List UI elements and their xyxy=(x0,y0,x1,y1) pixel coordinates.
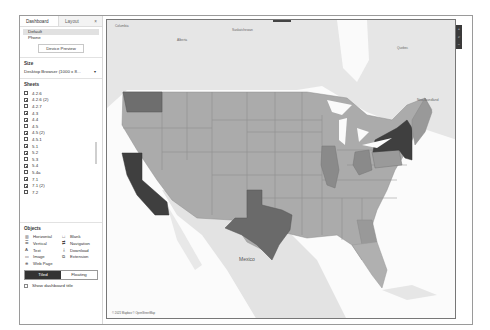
sheet-label: 4.2.7 xyxy=(32,104,42,109)
sheet-label: 4.5.1 xyxy=(32,137,42,142)
object-text[interactable]: AText xyxy=(24,248,61,253)
sheet-label: 4.4 xyxy=(32,117,38,122)
text-icon: A xyxy=(24,248,29,252)
objects-title: Objects xyxy=(24,226,98,231)
object-blank[interactable]: □Blank xyxy=(61,234,98,239)
sheet-item[interactable]: 4.2.6 (2) xyxy=(24,97,98,104)
size-value: Desktop Browser (1000 x 8... xyxy=(24,69,81,74)
sidebar-tabs: Dashboard Layout × xyxy=(20,16,102,27)
blank-icon: □ xyxy=(61,235,66,239)
show-title-checkbox[interactable] xyxy=(24,284,28,288)
worksheet-icon xyxy=(24,131,28,135)
object-label: Web Page xyxy=(33,261,52,266)
map-label-quebec: Quebec xyxy=(397,46,408,50)
object-extension[interactable]: ⧉Extension xyxy=(61,254,98,259)
tab-dashboard-label: Dashboard xyxy=(26,19,48,24)
map-attribution[interactable]: © 2021 Mapbox © OpenStreetMap xyxy=(112,311,155,315)
worksheet-icon xyxy=(24,124,28,128)
worksheet-icon xyxy=(24,184,28,188)
worksheet-icon xyxy=(24,98,28,102)
chevron-down-icon: ▾ xyxy=(94,69,96,74)
sheet-item[interactable]: 4.5 (2) xyxy=(24,130,98,137)
sheet-label: 5.1 xyxy=(32,144,38,149)
sheet-item[interactable]: 4.5 xyxy=(24,123,98,130)
tiled-button[interactable]: Tiled xyxy=(25,271,61,279)
object-navigation[interactable]: ⇄Navigation xyxy=(61,241,98,246)
worksheet-icon xyxy=(24,91,28,95)
worksheet-icon xyxy=(24,111,28,115)
sheet-item[interactable]: 4.4 xyxy=(24,116,98,123)
floating-button[interactable]: Floating xyxy=(61,271,97,279)
worksheet-icon xyxy=(24,151,28,155)
map-label-saskatchewan: Saskatchewan xyxy=(232,28,253,32)
worksheet-icon xyxy=(24,164,28,168)
sheet-item[interactable]: 4.5.1 xyxy=(24,136,98,143)
search-icon[interactable]: ⌕ xyxy=(456,33,462,41)
sheet-label: 4.5 xyxy=(32,124,38,129)
sheet-label: 5.4 xyxy=(32,163,38,168)
device-item-phone[interactable]: Phone xyxy=(23,35,99,41)
sheet-list-scrollbar[interactable] xyxy=(95,142,97,164)
worksheet-icon xyxy=(24,137,28,141)
sheet-item[interactable]: 7.2 xyxy=(24,189,98,196)
show-dashboard-title-option[interactable]: Show dashboard title xyxy=(24,283,98,288)
sheet-label: 7.1 xyxy=(32,177,38,182)
sheet-label: 5.3 xyxy=(32,157,38,162)
object-label: Vertical xyxy=(33,241,47,246)
sheet-item[interactable]: 7.1 (2) xyxy=(24,182,98,189)
map-label-alberta: Alberta xyxy=(177,38,187,42)
sheets-section: Sheets 4.2.6 4.2.6 (2) 4.2.7 4.3 4.4 4.5… xyxy=(20,78,102,222)
sheet-item[interactable]: 5.3 xyxy=(24,156,98,163)
sheet-label: 4.2.6 xyxy=(32,91,42,96)
sheet-item[interactable]: 4.2.6 xyxy=(24,90,98,97)
object-vertical[interactable]: ☰Vertical xyxy=(24,241,61,246)
close-icon[interactable]: × xyxy=(94,19,97,24)
zoom-in-icon[interactable]: + xyxy=(456,25,462,33)
worksheet-icon xyxy=(24,157,28,161)
web-page-icon: ⊕ xyxy=(24,262,29,266)
object-download[interactable]: ⤓Download xyxy=(61,248,98,253)
navigation-icon: ⇄ xyxy=(61,241,66,245)
object-horizontal[interactable]: ▥Horizontal xyxy=(24,234,61,239)
object-web-page[interactable]: ⊕Web Page xyxy=(24,261,61,266)
size-dropdown[interactable]: Desktop Browser (1000 x 8... ▾ xyxy=(24,69,98,74)
sheet-item[interactable]: 4.3 xyxy=(24,110,98,117)
object-label: Text xyxy=(33,248,41,253)
map-toolbar: + ⌕ − xyxy=(456,25,462,49)
sheet-label: 5.2 xyxy=(32,150,38,155)
show-title-label: Show dashboard title xyxy=(32,283,73,288)
sheet-item[interactable]: 5.4a xyxy=(24,169,98,176)
map-drag-handle[interactable] xyxy=(273,19,291,22)
vertical-container-icon: ☰ xyxy=(24,241,29,245)
sheet-item[interactable]: 7.1 xyxy=(24,176,98,183)
sheet-label: 4.2.6 (2) xyxy=(32,97,48,102)
tab-dashboard[interactable]: Dashboard xyxy=(20,16,59,26)
object-label: Horizontal xyxy=(33,234,52,239)
extension-icon: ⧉ xyxy=(61,255,66,259)
object-label: Download xyxy=(70,248,89,253)
choropleth-map xyxy=(107,20,456,319)
sheet-item[interactable]: 4.2.7 xyxy=(24,103,98,110)
size-title: Size xyxy=(24,61,98,66)
tab-layout[interactable]: Layout × xyxy=(59,16,102,26)
worksheet-icon xyxy=(24,118,28,122)
device-preview-button[interactable]: Device Preview xyxy=(38,44,84,53)
object-image[interactable]: ▭Image xyxy=(24,254,61,259)
object-label: Navigation xyxy=(70,241,90,246)
map-view[interactable]: Columbia Alberta Saskatchewan Quebec New… xyxy=(106,19,456,319)
sheet-item[interactable]: 5.1 xyxy=(24,143,98,150)
map-sheet-icon xyxy=(24,144,28,148)
sheet-item[interactable]: 5.4 xyxy=(24,163,98,170)
sheets-title: Sheets xyxy=(24,82,98,87)
object-label: Extension xyxy=(70,254,88,259)
sheet-item[interactable]: 5.2 xyxy=(24,149,98,156)
sheet-label: 4.3 xyxy=(32,111,38,116)
zoom-out-icon[interactable]: − xyxy=(456,41,462,49)
layout-mode-toggle: Tiled Floating xyxy=(24,270,98,280)
map-label-mexico: Mexico xyxy=(239,256,255,262)
dashboard-editor: Dashboard Layout × Default Phone Device … xyxy=(19,15,473,325)
worksheet-icon xyxy=(24,170,28,174)
worksheet-icon xyxy=(24,104,28,108)
device-item-label: Default xyxy=(28,29,42,34)
sheet-label: 7.1 (2) xyxy=(32,183,45,188)
